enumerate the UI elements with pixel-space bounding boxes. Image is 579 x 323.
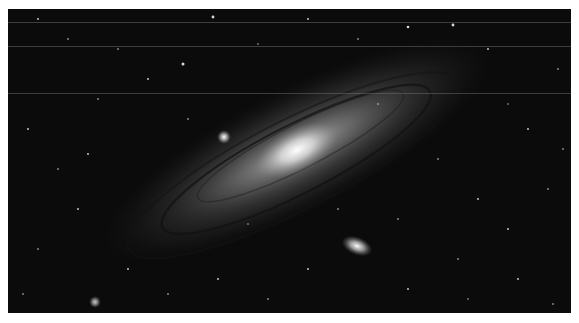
star-field (8, 9, 571, 313)
galaxy-photo (8, 9, 571, 313)
streak-line (8, 46, 571, 47)
streak-line (8, 93, 571, 94)
streak-line (8, 22, 571, 23)
companion-galaxy-upper (217, 130, 231, 144)
